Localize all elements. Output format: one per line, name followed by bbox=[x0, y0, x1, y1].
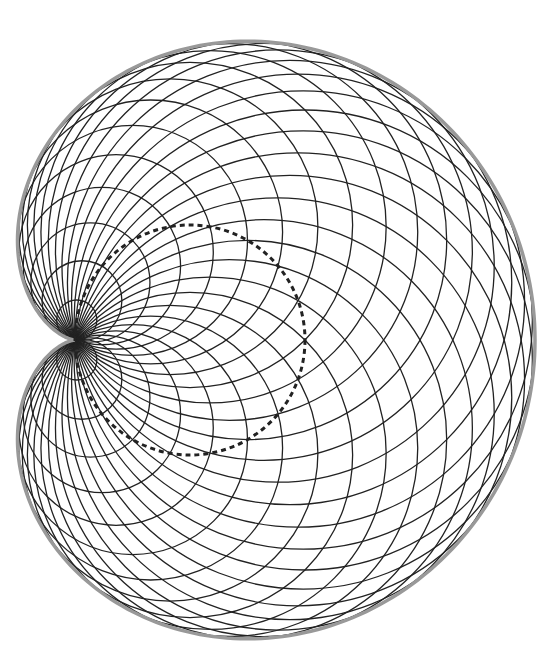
circle-family bbox=[18, 41, 536, 639]
cardioid-envelope bbox=[18, 41, 536, 639]
cardioid-figure bbox=[0, 0, 559, 667]
cardioid-diagram bbox=[0, 0, 559, 667]
